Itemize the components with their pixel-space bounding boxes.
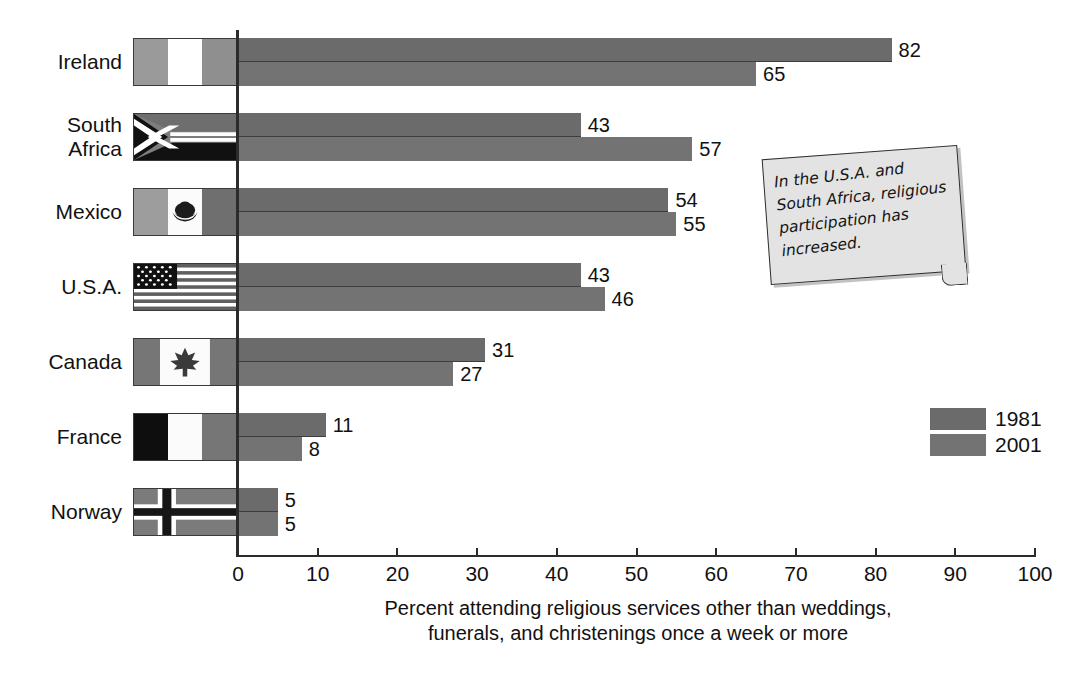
bar-chart: Ireland8265South Africa4357Mexico5455U.S… xyxy=(0,0,1088,679)
bar-2001: 65 xyxy=(238,62,756,86)
callout-note: In the U.S.A. and South Africa, religiou… xyxy=(762,145,967,285)
category-label-south-africa: South Africa xyxy=(0,113,122,161)
x-tick-label: 40 xyxy=(545,562,568,586)
bar-1981: 82 xyxy=(238,38,892,62)
bar-value-label: 43 xyxy=(588,113,610,136)
bar-value-label: 27 xyxy=(460,363,482,386)
legend-label-2001: 2001 xyxy=(995,433,1042,457)
x-tick xyxy=(795,548,797,557)
bar-1981: 31 xyxy=(238,338,485,362)
callout-note-fold-icon xyxy=(941,263,969,287)
bar-1981: 43 xyxy=(238,263,581,287)
category-label-u-s-a: U.S.A. xyxy=(0,263,122,311)
x-tick xyxy=(875,548,877,557)
bar-1981: 54 xyxy=(238,188,668,212)
chart-row: Ireland8265 xyxy=(0,38,1088,86)
bar-value-label: 82 xyxy=(899,38,921,61)
flag-south-africa-icon xyxy=(133,113,237,161)
x-tick-label: 100 xyxy=(1017,562,1052,586)
flag-usa-icon xyxy=(133,263,237,311)
category-label-mexico: Mexico xyxy=(0,188,122,236)
bar-2001: 57 xyxy=(238,137,692,161)
bar-1981: 5 xyxy=(238,488,278,512)
x-tick xyxy=(396,548,398,557)
x-tick xyxy=(237,548,239,557)
x-tick-label: 30 xyxy=(465,562,488,586)
x-axis-title: Percent attending religious services oth… xyxy=(238,596,1038,646)
x-tick-label: 80 xyxy=(864,562,887,586)
category-label-france: France xyxy=(0,413,122,461)
bar-value-label: 5 xyxy=(285,513,296,536)
x-tick xyxy=(556,548,558,557)
x-axis-title-line-2: funerals, and christenings once a week o… xyxy=(428,622,848,644)
bar-value-label: 54 xyxy=(675,188,697,211)
bar-value-label: 57 xyxy=(699,138,721,161)
bar-2001: 55 xyxy=(238,212,676,236)
flag-ireland-icon xyxy=(133,38,237,86)
y-axis-line xyxy=(236,30,239,556)
flag-mexico-icon xyxy=(133,188,237,236)
x-tick xyxy=(317,548,319,557)
flag-norway-icon xyxy=(133,488,237,536)
x-tick-label: 10 xyxy=(306,562,329,586)
bar-value-label: 5 xyxy=(285,488,296,511)
flag-france-icon xyxy=(133,413,237,461)
category-label-ireland: Ireland xyxy=(0,38,122,86)
chart-row: France118 xyxy=(0,413,1088,461)
bar-value-label: 11 xyxy=(333,413,354,436)
x-tick xyxy=(954,548,956,557)
x-tick xyxy=(715,548,717,557)
x-axis-title-line-1: Percent attending religious services oth… xyxy=(385,597,892,619)
category-label-canada: Canada xyxy=(0,338,122,386)
x-tick-label: 0 xyxy=(232,562,244,586)
bar-value-label: 46 xyxy=(612,288,634,311)
legend-swatch-2001 xyxy=(930,434,986,456)
x-tick xyxy=(636,548,638,557)
bar-value-label: 55 xyxy=(683,213,705,236)
chart-row: Norway55 xyxy=(0,488,1088,536)
legend-item-2001: 2001 xyxy=(930,432,1080,458)
bar-value-label: 65 xyxy=(763,63,785,86)
bar-1981: 11 xyxy=(238,413,326,437)
bar-value-label: 43 xyxy=(588,263,610,286)
category-label-norway: Norway xyxy=(0,488,122,536)
flag-canada-icon xyxy=(133,338,237,386)
chart-legend: 1981 2001 xyxy=(930,406,1080,458)
x-tick-label: 50 xyxy=(625,562,648,586)
x-tick xyxy=(476,548,478,557)
x-tick-label: 90 xyxy=(944,562,967,586)
legend-swatch-1981 xyxy=(930,408,986,430)
legend-item-1981: 1981 xyxy=(930,406,1080,432)
callout-note-text: In the U.S.A. and South Africa, religiou… xyxy=(773,153,958,263)
chart-row: Canada3127 xyxy=(0,338,1088,386)
x-tick-label: 60 xyxy=(705,562,728,586)
x-tick-label: 70 xyxy=(784,562,807,586)
bar-2001: 5 xyxy=(238,512,278,536)
bar-2001: 8 xyxy=(238,437,302,461)
bar-value-label: 31 xyxy=(492,338,514,361)
bar-2001: 46 xyxy=(238,287,605,311)
x-tick xyxy=(1034,548,1036,557)
bar-2001: 27 xyxy=(238,362,453,386)
bar-value-label: 8 xyxy=(309,438,320,461)
legend-label-1981: 1981 xyxy=(995,407,1042,431)
x-tick-label: 20 xyxy=(386,562,409,586)
bar-1981: 43 xyxy=(238,113,581,137)
